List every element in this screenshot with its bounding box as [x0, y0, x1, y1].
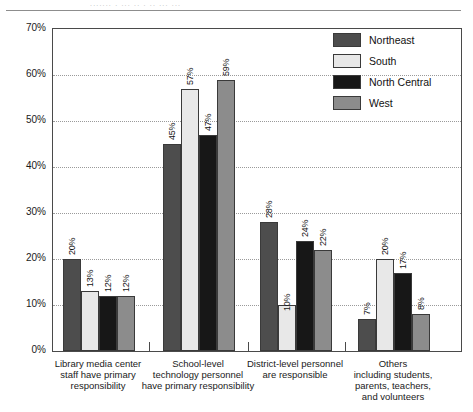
bar-value-label: 20%: [68, 238, 77, 255]
bar-value-label: 24%: [301, 219, 310, 236]
legend-label: North Central: [369, 76, 431, 88]
bar-value-label: 57%: [186, 67, 195, 84]
bar-rect[interactable]: [181, 89, 199, 351]
legend-item[interactable]: Northeast: [333, 30, 455, 49]
bar-value-label: 59%: [222, 58, 231, 75]
bar-rect[interactable]: [314, 250, 332, 351]
bar-rect[interactable]: [358, 319, 376, 351]
bar-south[interactable]: 10%: [278, 29, 296, 351]
bar-value-label: 45%: [168, 123, 177, 140]
y-axis-tick-label: 20%: [8, 252, 46, 263]
chart-legend: NortheastSouthNorth CentralWest: [333, 30, 455, 114]
bar-west[interactable]: 22%: [314, 29, 332, 351]
bar-rect[interactable]: [260, 222, 278, 351]
legend-swatch-icon: [333, 54, 361, 68]
x-axis-group-tick: [248, 342, 249, 351]
title-divider-rule: [6, 10, 461, 11]
bar-rect[interactable]: [412, 314, 430, 351]
y-axis-tick-label: 0%: [8, 344, 46, 355]
category-label-line: parents, teachers,: [323, 380, 463, 391]
category-label-line: and volunteers: [323, 391, 463, 402]
y-axis-tick-label: 60%: [8, 68, 46, 79]
y-axis-tick-label: 40%: [8, 160, 46, 171]
y-axis-tick-label: 70%: [8, 22, 46, 33]
y-axis-tick-label: 50%: [8, 114, 46, 125]
bar-group: 20%13%12%12%: [63, 29, 135, 351]
bar-rect[interactable]: [376, 259, 394, 351]
bar-rect[interactable]: [394, 273, 412, 351]
cropped-title-text: ....... . ... .. . .. ... ...: [90, 0, 390, 7]
legend-swatch-icon: [333, 96, 361, 110]
bar-rect[interactable]: [81, 291, 99, 351]
bar-rect[interactable]: [117, 296, 135, 351]
bar-rect[interactable]: [99, 296, 117, 351]
bar-rect[interactable]: [163, 144, 181, 351]
bar-west[interactable]: 12%: [117, 29, 135, 351]
legend-label: South: [369, 55, 396, 67]
x-axis-group-tick: [345, 342, 346, 351]
bar-rect[interactable]: [278, 305, 296, 351]
bar-value-label: 47%: [204, 113, 213, 130]
legend-item[interactable]: South: [333, 51, 455, 70]
bar-value-label: 22%: [319, 228, 328, 245]
bar-value-label: 10%: [283, 294, 292, 311]
y-axis-tick-label: 10%: [8, 298, 46, 309]
category-label-line: Others: [323, 358, 463, 369]
bar-south[interactable]: 57%: [181, 29, 199, 351]
bar-group: 28%10%24%22%: [260, 29, 332, 351]
x-axis-group-tick: [149, 342, 150, 351]
bar-west[interactable]: 59%: [217, 29, 235, 351]
x-axis-category-label: Othersincluding students,parents, teache…: [323, 358, 463, 402]
legend-label: West: [369, 97, 393, 109]
bar-north-central[interactable]: 12%: [99, 29, 117, 351]
bar-value-label: 7%: [363, 302, 372, 315]
bar-value-label: 28%: [265, 201, 274, 218]
bar-rect[interactable]: [296, 241, 314, 351]
legend-swatch-icon: [333, 33, 361, 47]
category-label-line: have primary responsibility: [128, 380, 268, 391]
bar-northeast[interactable]: 20%: [63, 29, 81, 351]
bar-northeast[interactable]: 28%: [260, 29, 278, 351]
bar-value-label: 12%: [122, 274, 131, 291]
bar-north-central[interactable]: 47%: [199, 29, 217, 351]
legend-swatch-icon: [333, 75, 361, 89]
bar-rect[interactable]: [63, 259, 81, 351]
bar-south[interactable]: 13%: [81, 29, 99, 351]
bar-value-label: 13%: [86, 270, 95, 287]
bar-northeast[interactable]: 45%: [163, 29, 181, 351]
bar-value-label: 8%: [417, 298, 426, 311]
bar-value-label: 12%: [104, 274, 113, 291]
bar-rect[interactable]: [199, 135, 217, 351]
category-label-line: including students,: [323, 369, 463, 380]
legend-item[interactable]: North Central: [333, 72, 455, 91]
bar-group: 45%57%47%59%: [163, 29, 235, 351]
bar-rect[interactable]: [217, 80, 235, 351]
bar-value-label: 17%: [399, 251, 408, 268]
bar-value-label: 20%: [381, 238, 390, 255]
legend-item[interactable]: West: [333, 93, 455, 112]
bar-north-central[interactable]: 24%: [296, 29, 314, 351]
y-axis-tick-label: 30%: [8, 206, 46, 217]
legend-label: Northeast: [369, 34, 415, 46]
